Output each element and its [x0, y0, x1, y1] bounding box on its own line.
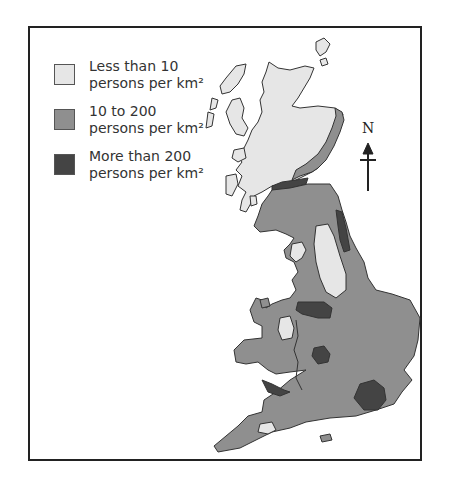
legend-mid-line1: 10 to 200 — [89, 103, 204, 120]
island-barra — [206, 112, 214, 128]
swatch-low — [54, 64, 75, 85]
legend-high-line2: persons per km² — [89, 165, 204, 182]
island-skye — [226, 98, 248, 136]
island-orkney — [316, 38, 330, 56]
island-arran — [250, 196, 257, 206]
legend-mid-line2: persons per km² — [89, 120, 204, 137]
north-arrow-icon — [360, 143, 376, 191]
legend-low-line2: persons per km² — [89, 75, 204, 92]
north-label: N — [361, 120, 375, 136]
legend-high-line1: More than 200 — [89, 148, 204, 165]
island-uist — [210, 98, 218, 110]
island-shetland — [320, 58, 328, 66]
swatch-mid — [54, 109, 75, 130]
region-mid-wales — [278, 316, 294, 340]
island-jura — [226, 174, 238, 196]
island-wight — [320, 434, 332, 442]
island-anglesey — [260, 298, 270, 308]
swatch-high — [54, 154, 75, 175]
island-lewis — [220, 64, 246, 94]
legend-low-line1: Less than 10 — [89, 58, 204, 75]
